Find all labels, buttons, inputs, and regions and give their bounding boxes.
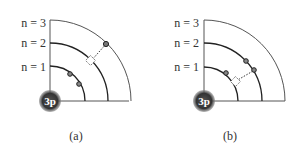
transition-path xyxy=(236,71,253,81)
electron xyxy=(68,72,73,77)
electron xyxy=(224,71,229,76)
electron xyxy=(252,68,257,73)
electron xyxy=(244,59,249,64)
nucleus-label: 3p xyxy=(44,95,56,107)
vacancy-marker xyxy=(231,77,241,87)
label-n1: n = 1 xyxy=(21,60,46,74)
caption-a: (a) xyxy=(69,129,82,143)
label-n1: n = 1 xyxy=(174,60,199,74)
label-n3: n = 3 xyxy=(21,16,46,30)
caption-b: (b) xyxy=(223,129,237,143)
label-n2: n = 2 xyxy=(21,36,46,50)
panel-a: n = 3 n = 2 n = 1 3p (a) xyxy=(21,16,131,143)
nucleus-label: 3p xyxy=(198,95,210,107)
atom-diagram: n = 3 n = 2 n = 1 3p (a) n = 3 n = 2 n =… xyxy=(0,0,302,155)
electron xyxy=(77,82,82,87)
panel-b: n = 3 n = 2 n = 1 3p (b) xyxy=(174,16,285,143)
label-n2: n = 2 xyxy=(174,36,199,50)
electron xyxy=(103,41,108,46)
label-n3: n = 3 xyxy=(174,16,199,30)
